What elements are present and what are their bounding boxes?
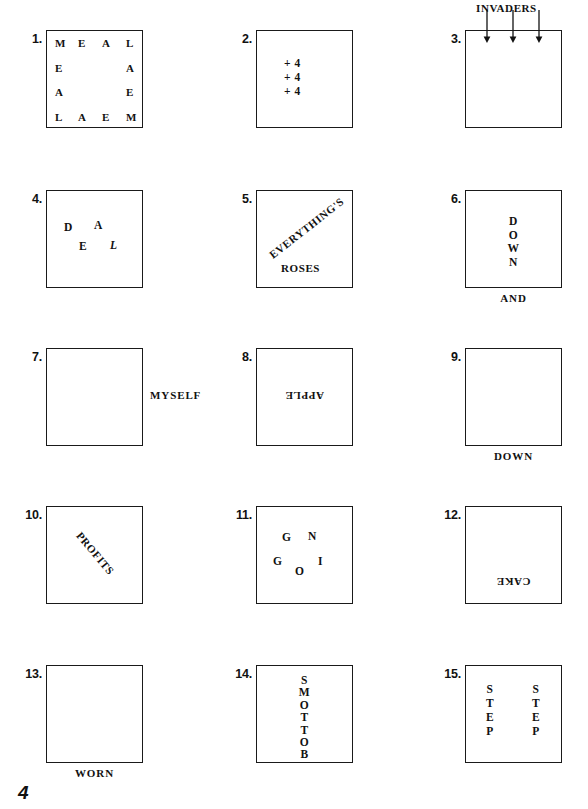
perimeter-letter: A bbox=[126, 63, 135, 74]
worksheet-page: 1. M E A L E A A E L A E M 2. + 4 + 4 + … bbox=[0, 0, 588, 809]
perimeter-letter: A bbox=[102, 38, 111, 49]
scattered-letter: N bbox=[308, 531, 316, 543]
plus-four-line: + 4 bbox=[284, 56, 301, 70]
perimeter-letter: E bbox=[55, 63, 63, 74]
roses-text: ROSES bbox=[281, 263, 320, 274]
vertical-letter: D bbox=[465, 215, 562, 229]
vertical-letter: O bbox=[256, 736, 353, 748]
puzzle-3[interactable]: 3. INVADERS bbox=[465, 30, 562, 128]
vertical-letter: T bbox=[256, 711, 353, 723]
scattered-letter: G bbox=[273, 556, 282, 568]
perimeter-letter: M bbox=[55, 38, 66, 49]
scattered-letter: L bbox=[110, 240, 117, 252]
vertical-letter: N bbox=[465, 256, 562, 270]
puzzle-box-13[interactable] bbox=[46, 665, 143, 763]
puzzle-11[interactable]: 11. G N G I O bbox=[256, 506, 353, 604]
puzzle-7[interactable]: 7. MYSELF bbox=[46, 348, 143, 446]
perimeter-letter: L bbox=[126, 38, 134, 49]
scattered-letter: E bbox=[79, 241, 87, 253]
puzzle-box-7[interactable] bbox=[46, 348, 143, 446]
puzzle-number-9: 9. bbox=[451, 350, 461, 364]
worn-label: WORN bbox=[46, 768, 143, 779]
vertical-letter: E bbox=[477, 710, 503, 724]
puzzle-13[interactable]: 13. WORN bbox=[46, 665, 143, 763]
puzzle-4[interactable]: 4. D A E L bbox=[46, 190, 143, 288]
vertical-letter: W bbox=[465, 242, 562, 256]
puzzle-box-11[interactable] bbox=[256, 506, 353, 604]
page-number: 4 bbox=[18, 782, 29, 804]
scattered-letter: I bbox=[318, 556, 322, 568]
apple-upside-down-text: APPLE bbox=[256, 390, 353, 401]
puzzle-box-2[interactable] bbox=[256, 30, 353, 128]
vertical-letter: P bbox=[523, 724, 549, 738]
vertical-letter: O bbox=[256, 699, 353, 711]
puzzle-6[interactable]: 6. D O W N AND bbox=[465, 190, 562, 288]
puzzle-1[interactable]: 1. M E A L E A A E L A E M bbox=[46, 30, 143, 128]
puzzle-number-11: 11. bbox=[236, 508, 252, 522]
puzzle-number-5: 5. bbox=[242, 192, 252, 206]
perimeter-letter: A bbox=[55, 87, 64, 98]
vertical-letter: S bbox=[523, 682, 549, 696]
plus-four-line: + 4 bbox=[284, 84, 301, 98]
vertical-letter: O bbox=[465, 229, 562, 243]
perimeter-letter: E bbox=[126, 87, 134, 98]
puzzle-2[interactable]: 2. + 4 + 4 + 4 bbox=[256, 30, 353, 128]
puzzle-box-4[interactable] bbox=[46, 190, 143, 288]
vertical-letter: M bbox=[256, 686, 353, 698]
vertical-letter: T bbox=[477, 696, 503, 710]
vertical-letter: T bbox=[523, 696, 549, 710]
myself-label: MYSELF bbox=[150, 390, 201, 401]
vertical-letter: S bbox=[477, 682, 503, 696]
puzzle-number-1: 1. bbox=[32, 32, 42, 46]
scattered-letter: D bbox=[64, 222, 72, 234]
vertical-letter: T bbox=[256, 724, 353, 736]
scattered-letter: O bbox=[295, 566, 304, 578]
down-label: DOWN bbox=[465, 451, 562, 462]
puzzle-box-12[interactable] bbox=[465, 506, 562, 604]
cake-upside-down-text: CAKE bbox=[465, 576, 562, 587]
puzzle-number-12: 12. bbox=[444, 508, 461, 522]
vertical-letter: B bbox=[256, 748, 353, 760]
puzzle-8[interactable]: 8. APPLE bbox=[256, 348, 353, 446]
puzzle-number-15: 15. bbox=[444, 667, 461, 681]
puzzle-number-4: 4. bbox=[32, 192, 42, 206]
vertical-letter: S bbox=[256, 674, 353, 686]
puzzle-5[interactable]: 5. EVERYTHING'S ROSES bbox=[256, 190, 353, 288]
puzzle-number-2: 2. bbox=[242, 32, 252, 46]
puzzle-15[interactable]: 15. S T E P S T E P bbox=[465, 665, 562, 763]
perimeter-letter: E bbox=[78, 38, 86, 49]
and-label: AND bbox=[465, 293, 562, 304]
puzzle-number-3: 3. bbox=[451, 32, 461, 46]
puzzle-9[interactable]: 9. DOWN bbox=[465, 348, 562, 446]
vertical-letter: P bbox=[477, 724, 503, 738]
perimeter-letter: A bbox=[78, 112, 87, 123]
puzzle-box-9[interactable] bbox=[465, 348, 562, 446]
puzzle-number-14: 14. bbox=[235, 667, 252, 681]
perimeter-letter: E bbox=[102, 112, 110, 123]
puzzle-number-10: 10. bbox=[25, 508, 42, 522]
scattered-letter: G bbox=[282, 532, 291, 544]
puzzle-12[interactable]: 12. CAKE bbox=[465, 506, 562, 604]
plus-four-line: + 4 bbox=[284, 70, 301, 84]
vertical-letter: E bbox=[523, 710, 549, 724]
puzzle-number-7: 7. bbox=[32, 350, 42, 364]
perimeter-letter: L bbox=[55, 112, 63, 123]
puzzle-number-6: 6. bbox=[451, 192, 461, 206]
puzzle-14[interactable]: 14. S M O T T O B bbox=[256, 665, 353, 763]
invaders-arrows-icon bbox=[465, 9, 562, 51]
puzzle-number-13: 13. bbox=[25, 667, 42, 681]
puzzle-10[interactable]: 10. PROFITS bbox=[46, 506, 143, 604]
scattered-letter: A bbox=[94, 220, 102, 232]
perimeter-letter: M bbox=[126, 112, 137, 123]
puzzle-number-8: 8. bbox=[242, 350, 252, 364]
